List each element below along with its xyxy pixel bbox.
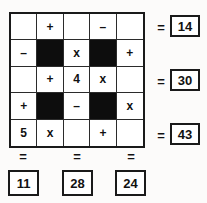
grid-cell-r1c5[interactable] [117,14,143,40]
grid-cell-r2c3[interactable]: x [64,40,90,66]
grid-cell-r5c5[interactable] [117,120,143,146]
grid-cell-r3c2[interactable]: + [37,67,63,93]
grid-cell-r1c3[interactable] [64,14,90,40]
column-equals-sign-3: = [124,150,138,163]
grid-cell-r3c1[interactable] [11,67,37,93]
grid-cell-r5c2[interactable]: x [37,120,63,146]
grid-cell-r2c1[interactable]: – [11,40,37,66]
grid-cell-r1c2[interactable]: + [37,14,63,40]
grid-cell-r4c5[interactable]: x [117,93,143,119]
grid-cell-r5c1[interactable]: 5 [11,120,37,146]
column-equals-sign-1: = [16,150,30,163]
row-equals-sign-3: = [155,129,167,142]
grid-cell-r3c5[interactable] [117,67,143,93]
column-result-box-2[interactable]: 28 [62,170,93,196]
row-result-box-2[interactable]: 30 [170,69,200,91]
column-result-box-3[interactable]: 24 [115,170,146,196]
grid-cell-r2c2-blocked [37,40,63,66]
grid-cell-r5c4[interactable]: + [90,120,116,146]
puzzle-grid: + – – x + + 4 x + – x 5 x + [9,12,145,148]
column-result-box-1[interactable]: 11 [8,170,39,196]
grid-cell-r4c4-blocked [90,93,116,119]
grid-cell-r2c5[interactable]: + [117,40,143,66]
row-result-box-3[interactable]: 43 [170,123,200,145]
grid-cell-r3c3[interactable]: 4 [64,67,90,93]
row-equals-sign-2: = [155,75,167,88]
grid-cell-r5c3[interactable] [64,120,90,146]
column-equals-sign-2: = [70,150,84,163]
row-result-box-1[interactable]: 14 [170,15,200,37]
grid-cell-r4c1[interactable]: + [11,93,37,119]
grid-cell-r4c2-blocked [37,93,63,119]
grid-cell-r4c3[interactable]: – [64,93,90,119]
grid-cell-r1c4[interactable]: – [90,14,116,40]
row-equals-sign-1: = [155,21,167,34]
grid-cell-r1c1[interactable] [11,14,37,40]
grid-cell-r3c4[interactable]: x [90,67,116,93]
grid-cell-r2c4-blocked [90,40,116,66]
